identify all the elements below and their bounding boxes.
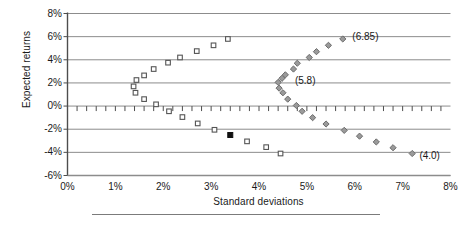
series-highlighted-point xyxy=(228,133,233,138)
data-point xyxy=(167,109,172,114)
data-point xyxy=(325,42,331,48)
data-point-highlighted xyxy=(228,133,233,138)
data-point xyxy=(390,145,396,151)
data-point xyxy=(134,78,139,83)
data-point xyxy=(195,121,200,126)
data-series-layer xyxy=(131,36,415,157)
plot-area xyxy=(0,0,466,226)
zero-axis-minor-ticks xyxy=(77,106,441,111)
data-point xyxy=(356,133,362,139)
data-annotation: (6.85) xyxy=(352,32,378,42)
series-open-square-frontier xyxy=(131,37,283,156)
data-point xyxy=(264,145,269,150)
data-point xyxy=(313,49,319,55)
data-point xyxy=(323,121,329,127)
data-point xyxy=(142,73,147,78)
data-point xyxy=(194,49,199,54)
series-diamond-frontier xyxy=(275,36,415,157)
data-point xyxy=(278,151,283,156)
data-point xyxy=(180,115,185,120)
data-annotation: (4.0) xyxy=(419,151,440,161)
data-point xyxy=(154,102,159,107)
data-point xyxy=(245,139,250,144)
data-point xyxy=(293,102,299,108)
chart-container: Expected returns Standard deviations 8%6… xyxy=(0,0,466,226)
data-point xyxy=(285,96,291,102)
data-annotation: (5.8) xyxy=(295,76,316,86)
data-point xyxy=(166,60,171,65)
data-point xyxy=(310,115,316,121)
data-point xyxy=(290,66,296,72)
data-point xyxy=(299,108,305,114)
data-point xyxy=(211,43,216,48)
footer-divider xyxy=(92,214,380,215)
data-point xyxy=(131,84,136,89)
data-point xyxy=(373,139,379,145)
data-point xyxy=(142,97,147,102)
data-point xyxy=(151,67,156,72)
data-point xyxy=(409,150,415,156)
data-point xyxy=(294,60,300,66)
data-point xyxy=(212,127,217,132)
data-point xyxy=(226,37,231,42)
data-point xyxy=(276,85,282,91)
data-point xyxy=(178,55,183,60)
data-point xyxy=(341,127,347,133)
data-point xyxy=(280,90,286,96)
data-point xyxy=(133,90,138,95)
